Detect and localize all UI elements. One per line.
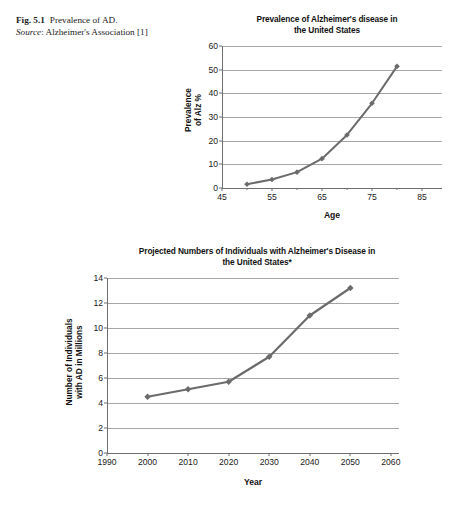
x-axis-tick-label: 1990 xyxy=(97,457,116,467)
prevalence-x-axis-label: Age xyxy=(222,210,442,220)
projection-plot-area: 0246810121419902000201020202030204020502… xyxy=(55,274,450,508)
x-axis-tick-label: 2050 xyxy=(341,457,360,467)
x-axis-tick-mark xyxy=(372,188,373,191)
y-axis-tick-label: 60 xyxy=(208,41,218,51)
x-axis-tick-label: 85 xyxy=(417,192,427,202)
x-axis-tick-label: 2020 xyxy=(219,457,238,467)
prevalence-chart-title-line1: Prevalence of Alzheimer's disease in xyxy=(202,14,452,25)
x-axis-tick-mark-minor xyxy=(247,188,248,190)
x-axis-tick-mark-minor xyxy=(297,188,298,190)
y-axis-tick-label: 10 xyxy=(93,323,103,333)
data-point-marker xyxy=(144,394,150,400)
projection-chart-title: Projected Numbers of Individuals with Al… xyxy=(77,246,437,268)
y-axis-tick-label: 40 xyxy=(208,88,218,98)
projection-y-axis-label-line1: Number of Individuals xyxy=(64,307,74,417)
data-point-marker xyxy=(269,177,275,183)
x-axis-tick-mark xyxy=(222,188,223,191)
prevalence-y-axis-label-line2: of Alz % xyxy=(193,73,203,147)
x-axis-tick-label: 45 xyxy=(217,192,227,202)
x-axis-tick-label: 2040 xyxy=(300,457,319,467)
figure-caption: Fig. 5.1Prevalence of AD. Source: Alzhei… xyxy=(16,15,164,38)
x-axis-tick-mark xyxy=(107,453,108,456)
x-axis-tick-label: 55 xyxy=(267,192,277,202)
projection-y-axis-label: Number of Individuals with AD in Million… xyxy=(64,307,84,417)
y-axis-tick-label: 6 xyxy=(98,373,103,383)
gridline-horizontal xyxy=(107,453,399,454)
x-axis-tick-mark xyxy=(422,188,423,191)
projection-plot: 0246810121419902000201020202030204020502… xyxy=(107,278,399,453)
x-axis-tick-mark xyxy=(390,453,391,456)
x-axis-tick-label: 2000 xyxy=(138,457,157,467)
x-axis-tick-label: 65 xyxy=(317,192,327,202)
x-axis-tick-mark xyxy=(272,188,273,191)
figure-number: Fig. 5.1 xyxy=(16,15,45,25)
y-axis-tick-label: 2 xyxy=(98,423,103,433)
y-axis-tick-label: 14 xyxy=(93,273,103,283)
source-label: Source xyxy=(16,27,41,37)
projection-chart-title-line2: the United States* xyxy=(77,257,437,268)
data-point-marker xyxy=(185,386,191,392)
x-axis-tick-label: 2060 xyxy=(381,457,400,467)
y-axis-tick-label: 8 xyxy=(98,348,103,358)
prevalence-y-axis-label: Prevalence of Alz % xyxy=(183,73,203,147)
projection-y-axis-label-line2: with AD in Millions xyxy=(74,307,84,417)
x-axis-tick-label: 2010 xyxy=(179,457,198,467)
y-axis-tick-label: 30 xyxy=(208,112,218,122)
x-axis-tick-mark xyxy=(228,453,229,456)
prevalence-chart-title: Prevalence of Alzheimer's disease in the… xyxy=(202,14,452,36)
figure-caption-text: Prevalence of AD. xyxy=(50,15,118,25)
data-series xyxy=(107,278,399,453)
projection-x-axis-label: Year xyxy=(107,477,399,487)
prevalence-plot-area: 01020304050604555657585 Prevalence of Al… xyxy=(180,40,452,226)
prevalence-y-axis-label-line1: Prevalence xyxy=(183,73,193,147)
x-axis-tick-mark xyxy=(188,453,189,456)
x-axis-tick-mark xyxy=(309,453,310,456)
x-axis-tick-mark xyxy=(269,453,270,456)
y-axis-tick-label: 10 xyxy=(208,159,218,169)
x-axis-tick-mark xyxy=(147,453,148,456)
projection-chart-title-line1: Projected Numbers of Individuals with Al… xyxy=(77,246,437,257)
data-point-marker xyxy=(244,181,250,187)
x-axis-tick-mark xyxy=(322,188,323,191)
projection-chart: Projected Numbers of Individuals with Al… xyxy=(55,246,450,508)
x-axis-tick-mark xyxy=(350,453,351,456)
x-axis-tick-label: 2030 xyxy=(260,457,279,467)
x-axis-tick-mark-minor xyxy=(347,188,348,190)
prevalence-chart-title-line2: the United States xyxy=(202,25,452,36)
prevalence-plot: 01020304050604555657585 xyxy=(222,46,442,188)
gridline-horizontal xyxy=(222,188,442,189)
x-axis-tick-mark-minor xyxy=(397,188,398,190)
y-axis-tick-label: 20 xyxy=(208,136,218,146)
series-line xyxy=(148,288,351,397)
prevalence-chart: Prevalence of Alzheimer's disease in the… xyxy=(180,14,452,226)
x-axis-tick-label: 75 xyxy=(367,192,377,202)
data-series xyxy=(222,46,442,188)
y-axis-tick-label: 50 xyxy=(208,65,218,75)
y-axis-tick-label: 4 xyxy=(98,398,103,408)
source-text: : Alzheimer's Association [1] xyxy=(41,27,148,37)
series-line xyxy=(247,66,397,184)
y-axis-tick-label: 12 xyxy=(93,298,103,308)
